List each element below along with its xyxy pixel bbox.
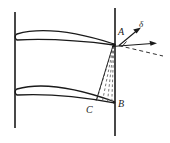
figure-container: A B C δ	[0, 0, 170, 143]
wake-fan-line-4	[112, 46, 114, 102]
upper-blade-suction-surface	[17, 31, 114, 44]
point-c-label: C	[86, 105, 93, 115]
lower-blade-pressure-surface	[17, 95, 114, 103]
deviation-angle-label: δ	[139, 20, 143, 29]
lower-blade-profile	[15, 86, 114, 103]
flow-direction-arrow-icon	[112, 41, 157, 47]
upper-blade-pressure-surface	[17, 40, 114, 45]
point-b-node	[113, 101, 115, 103]
wake-wedge-boundary	[96, 46, 113, 101]
upper-blade-leading-edge	[15, 34, 17, 40]
upper-blade-profile	[15, 31, 114, 45]
point-a-label: A	[118, 27, 124, 37]
wake-fan-group	[97, 46, 114, 102]
point-a-node	[113, 43, 116, 46]
point-b-label: B	[118, 99, 124, 109]
lower-blade-leading-edge	[15, 89, 17, 95]
cascade-diagram-svg	[0, 0, 170, 143]
